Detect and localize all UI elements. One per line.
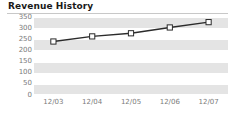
y-axis-tick-label: 0 <box>0 92 32 99</box>
header-divider <box>7 13 228 14</box>
x-axis-tick-label: 12/06 <box>150 98 190 107</box>
y-axis: 350300250200150100500 <box>0 17 32 95</box>
y-axis-tick-label: 100 <box>0 69 32 76</box>
data-point-marker <box>206 20 211 25</box>
x-axis: 12/0312/0412/0512/0612/07 <box>34 98 228 110</box>
x-axis-tick-label: 12/03 <box>33 98 73 107</box>
x-axis-tick-label: 12/05 <box>111 98 151 107</box>
y-axis-tick-label: 50 <box>0 80 32 87</box>
series-markers <box>51 20 211 45</box>
data-point-marker <box>167 25 172 30</box>
y-axis-tick-label: 200 <box>0 47 32 54</box>
revenue-history-chart-widget: Revenue History 350300250200150100500 12… <box>0 0 234 117</box>
revenue-line-series <box>34 17 228 95</box>
data-point-marker <box>128 31 133 36</box>
y-axis-tick-label: 250 <box>0 36 32 43</box>
chart-header: Revenue History <box>0 0 234 14</box>
y-axis-tick-label: 150 <box>0 58 32 65</box>
x-axis-tick-label: 12/04 <box>72 98 112 107</box>
data-point-marker <box>51 39 56 44</box>
x-axis-tick-label: 12/07 <box>189 98 229 107</box>
chart-title: Revenue History <box>8 1 93 12</box>
data-point-marker <box>90 34 95 39</box>
y-axis-tick-label: 300 <box>0 25 32 32</box>
y-axis-tick-label: 350 <box>0 14 32 21</box>
